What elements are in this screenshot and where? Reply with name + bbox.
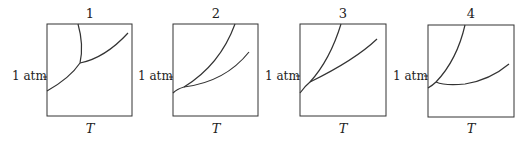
pressure-label: 1 atm: [393, 69, 428, 83]
phase-diagram-3: 3 1 atm T: [260, 0, 400, 150]
panel-number: 1: [80, 6, 100, 21]
phase-diagram-4: 4 1 atm T: [385, 0, 525, 150]
temperature-label: T: [80, 121, 100, 136]
temperature-label: T: [206, 121, 226, 136]
pressure-label: 1 atm: [12, 69, 47, 83]
phase-diagram-1: 1 1 atm T: [0, 0, 140, 150]
phase-diagram-2: 2 1 atm T: [130, 0, 270, 150]
temperature-label: T: [461, 121, 481, 136]
pressure-label: 1 atm: [138, 69, 173, 83]
temperature-label: T: [333, 121, 353, 136]
pressure-label: 1 atm: [265, 69, 300, 83]
panel-number: 4: [461, 6, 481, 21]
panel-number: 3: [333, 6, 353, 21]
panel-number: 2: [206, 6, 226, 21]
